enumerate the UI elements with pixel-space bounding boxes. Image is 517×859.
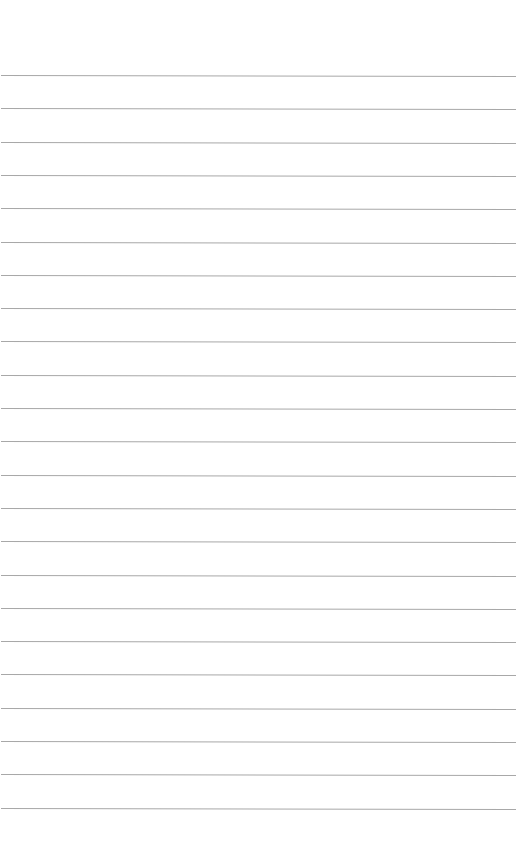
ruled-line — [1, 774, 516, 776]
ruled-line — [1, 341, 516, 343]
ruled-line — [1, 108, 516, 110]
ruled-line — [1, 441, 516, 443]
ruled-line — [1, 75, 516, 77]
ruled-line — [1, 641, 516, 643]
ruled-line — [1, 375, 516, 377]
ruled-line — [1, 608, 516, 610]
ruled-line — [1, 808, 516, 810]
ruled-line — [1, 175, 516, 177]
ruled-line — [1, 575, 516, 577]
ruled-line — [1, 508, 516, 510]
ruled-line — [1, 142, 516, 144]
ruled-line — [1, 308, 516, 310]
ruled-line — [1, 242, 516, 244]
ruled-line — [1, 674, 516, 676]
ruled-line — [1, 208, 516, 210]
ruled-line — [1, 408, 516, 410]
lined-paper-page — [0, 0, 517, 859]
ruled-line — [1, 741, 516, 743]
ruled-line — [1, 275, 516, 277]
ruled-line — [1, 475, 516, 477]
ruled-line — [1, 541, 516, 543]
ruled-line — [1, 708, 516, 710]
